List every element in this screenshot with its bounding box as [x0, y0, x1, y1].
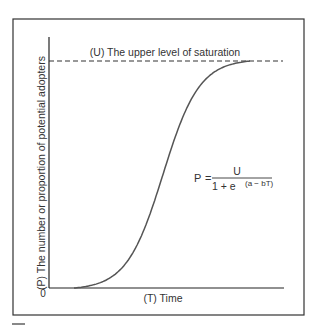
- diagram-canvas: (U) The upper level of saturation (P) Th…: [0, 0, 318, 329]
- x-axis-label: (T) Time: [143, 292, 182, 304]
- formula-exponent: (a − bT): [245, 179, 274, 188]
- formula-lhs: P: [194, 172, 201, 184]
- formula: P = U 1 + e (a − bT): [194, 165, 274, 192]
- formula-equals: =: [205, 172, 211, 184]
- caption-mark: [12, 323, 25, 325]
- saturation-label: (U) The upper level of saturation: [90, 46, 241, 58]
- origin-label: 0: [40, 288, 46, 299]
- frame: [13, 19, 304, 315]
- formula-numerator: U: [233, 165, 241, 177]
- formula-denominator-base: 1 + e: [212, 180, 236, 192]
- logistic-curve: [74, 61, 250, 288]
- y-axis-label: (P) The number or proportion of potentia…: [35, 56, 47, 290]
